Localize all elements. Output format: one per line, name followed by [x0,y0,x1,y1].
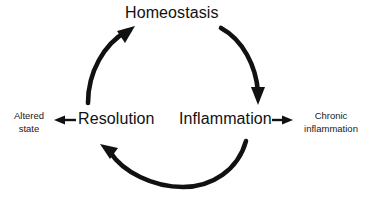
arrow-resolution-to-altered-state [54,116,76,125]
chronic-inflammation-line-2: inflammation [296,123,366,136]
node-label-resolution: Resolution [78,111,155,127]
altered-state-line-1: Altered [6,110,52,123]
altered-state-line-2: state [6,123,52,136]
chronic-inflammation-line-1: Chronic [296,110,366,123]
node-label-inflammation: Inflammation [179,111,272,127]
arrow-homeostasis-to-inflammation [221,28,265,105]
arrow-inflammation-to-chronic-inflammation [272,116,293,125]
inflammation-cycle-diagram: Homeostasis Resolution Inflammation Alte… [0,0,371,201]
node-label-homeostasis: Homeostasis [125,5,219,21]
node-label-altered-state: Altered state [6,110,52,136]
arrow-inflammation-to-resolution [100,141,246,187]
cycle-arrows-svg [0,0,371,201]
arrow-resolution-to-homeostasis [88,26,135,103]
node-label-chronic-inflammation: Chronic inflammation [296,110,366,136]
